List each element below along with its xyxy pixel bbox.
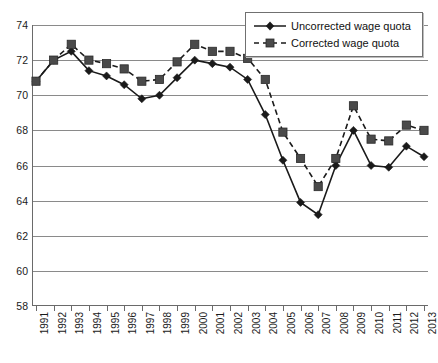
data-point bbox=[349, 102, 357, 110]
data-point bbox=[103, 72, 111, 80]
x-tick-label: 2003 bbox=[252, 312, 262, 334]
x-tick bbox=[318, 306, 319, 311]
data-point bbox=[385, 137, 393, 145]
x-tick-label: 2001 bbox=[216, 312, 226, 334]
x-tick-label: 2006 bbox=[305, 312, 315, 334]
x-tick bbox=[212, 306, 213, 311]
data-point bbox=[50, 56, 58, 64]
y-tick-label: 60 bbox=[16, 266, 28, 277]
x-tick bbox=[36, 306, 37, 311]
data-point bbox=[67, 40, 75, 48]
x-tick bbox=[283, 306, 284, 311]
x-tick-label: 2000 bbox=[199, 312, 209, 334]
y-tick-label: 62 bbox=[16, 231, 28, 242]
series-line-uncorrected bbox=[36, 51, 424, 214]
x-tick bbox=[371, 306, 372, 311]
x-tick-label: 1996 bbox=[128, 312, 138, 334]
data-point bbox=[261, 111, 269, 119]
x-tick bbox=[406, 306, 407, 311]
x-tick-label: 2009 bbox=[357, 312, 367, 334]
x-tick-label: 2002 bbox=[234, 312, 244, 334]
legend-item-corrected: Corrected wage quota bbox=[252, 34, 416, 51]
x-tick bbox=[71, 306, 72, 311]
x-tick bbox=[124, 306, 125, 311]
x-tick-label: 2005 bbox=[287, 312, 297, 334]
data-point bbox=[420, 126, 428, 134]
y-tick-label: 66 bbox=[16, 160, 28, 171]
data-point bbox=[155, 75, 163, 83]
y-tick-label: 72 bbox=[16, 55, 28, 66]
y-tick-label: 64 bbox=[16, 195, 28, 206]
x-tick-label: 2013 bbox=[428, 312, 438, 334]
x-tick-label: 1991 bbox=[40, 312, 50, 334]
x-tick bbox=[424, 306, 425, 311]
y-tick-label: 68 bbox=[16, 125, 28, 136]
y-tick-label: 58 bbox=[16, 301, 28, 312]
data-point bbox=[402, 121, 410, 129]
x-tick bbox=[159, 306, 160, 311]
x-tick-label: 2004 bbox=[269, 312, 279, 334]
x-tick bbox=[177, 306, 178, 311]
data-point bbox=[261, 75, 269, 83]
data-point bbox=[120, 65, 128, 73]
x-tick bbox=[248, 306, 249, 311]
x-tick bbox=[389, 306, 390, 311]
x-tick-label: 1993 bbox=[75, 312, 85, 334]
data-point bbox=[191, 40, 199, 48]
x-tick-label: 1992 bbox=[58, 312, 68, 334]
data-point bbox=[314, 182, 322, 190]
x-tick-label: 2011 bbox=[393, 312, 403, 334]
legend-label-corrected: Corrected wage quota bbox=[288, 37, 399, 49]
legend-item-uncorrected: Uncorrected wage quota bbox=[252, 17, 416, 34]
x-tick-label: 2008 bbox=[340, 312, 350, 334]
data-point bbox=[208, 60, 216, 68]
x-tick bbox=[89, 306, 90, 311]
x-tick bbox=[54, 306, 55, 311]
x-tick-label: 1995 bbox=[111, 312, 121, 334]
x-tick-label: 1997 bbox=[146, 312, 156, 334]
x-tick bbox=[353, 306, 354, 311]
y-axis-labels: 586062646668707274 bbox=[0, 0, 28, 363]
data-point bbox=[367, 162, 375, 170]
y-tick-label: 70 bbox=[16, 90, 28, 101]
legend-marker-square-icon bbox=[252, 36, 288, 50]
data-point bbox=[208, 47, 216, 55]
data-point bbox=[173, 58, 181, 66]
data-point bbox=[296, 154, 304, 162]
legend-marker-diamond-icon bbox=[252, 19, 288, 33]
x-tick-label: 2007 bbox=[322, 312, 332, 334]
data-point bbox=[138, 77, 146, 85]
data-point bbox=[102, 60, 110, 68]
x-tick-label: 1999 bbox=[181, 312, 191, 334]
data-point bbox=[367, 135, 375, 143]
data-point bbox=[279, 128, 287, 136]
data-point bbox=[420, 153, 428, 161]
x-axis-labels: 1991199219931994199519961997199819992000… bbox=[32, 312, 428, 360]
x-tick-label: 2010 bbox=[375, 312, 385, 334]
x-tick bbox=[142, 306, 143, 311]
data-point bbox=[32, 77, 40, 85]
data-point bbox=[85, 56, 93, 64]
x-tick bbox=[265, 306, 266, 311]
data-point bbox=[279, 156, 287, 164]
data-point bbox=[332, 154, 340, 162]
y-tick-label: 74 bbox=[16, 20, 28, 31]
x-tick-label: 1994 bbox=[93, 312, 103, 334]
x-tick bbox=[301, 306, 302, 311]
x-tick-label: 1998 bbox=[163, 312, 173, 334]
data-point bbox=[349, 126, 357, 134]
x-tick bbox=[336, 306, 337, 311]
x-tick bbox=[195, 306, 196, 311]
data-series-layer bbox=[32, 25, 428, 306]
data-point bbox=[226, 47, 234, 55]
chart-legend: Uncorrected wage quota Corrected wage qu… bbox=[245, 12, 423, 57]
x-tick bbox=[107, 306, 108, 311]
x-tick-label: 2012 bbox=[410, 312, 420, 334]
x-tick bbox=[230, 306, 231, 311]
legend-label-uncorrected: Uncorrected wage quota bbox=[288, 20, 411, 32]
